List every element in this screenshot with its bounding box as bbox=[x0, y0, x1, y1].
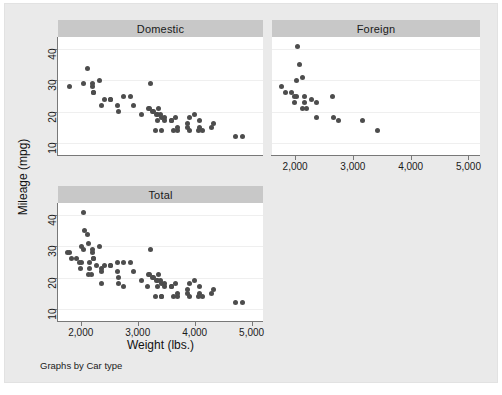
data-point bbox=[156, 272, 161, 277]
data-point bbox=[97, 244, 102, 249]
gridline bbox=[272, 112, 480, 113]
data-point bbox=[169, 284, 174, 289]
panel-total: Total bbox=[58, 186, 263, 321]
data-point bbox=[279, 84, 284, 89]
data-point bbox=[145, 284, 150, 289]
data-point bbox=[187, 115, 192, 120]
gridline bbox=[272, 80, 480, 81]
data-point bbox=[65, 250, 70, 255]
data-point bbox=[297, 62, 302, 67]
data-point bbox=[128, 94, 133, 99]
x-axis-tick bbox=[411, 156, 412, 160]
data-point bbox=[375, 128, 380, 133]
y-axis-tick-label: 40 bbox=[47, 215, 58, 255]
x-axis-line bbox=[271, 155, 480, 156]
x-axis-tick bbox=[295, 156, 296, 160]
data-point bbox=[115, 260, 120, 265]
x-axis-tick-label: 2,000 bbox=[271, 161, 319, 172]
data-point bbox=[309, 97, 314, 102]
x-axis-tick bbox=[195, 322, 196, 326]
data-point bbox=[90, 81, 95, 86]
data-point bbox=[121, 94, 126, 99]
x-axis-tick bbox=[353, 156, 354, 160]
panel-title-domestic: Domestic bbox=[58, 20, 263, 37]
gridline bbox=[58, 246, 263, 247]
data-point bbox=[302, 100, 307, 105]
x-axis-tick bbox=[252, 322, 253, 326]
data-point bbox=[171, 294, 176, 299]
x-axis-tick bbox=[468, 156, 469, 160]
data-point bbox=[128, 260, 133, 265]
y-axis-title: Mileage (mpg) bbox=[16, 127, 30, 227]
gridline bbox=[58, 80, 263, 81]
x-axis-tick-label: 4,000 bbox=[171, 327, 219, 338]
data-point bbox=[108, 97, 113, 102]
data-point bbox=[85, 66, 90, 71]
data-point bbox=[147, 106, 152, 111]
data-point bbox=[121, 260, 126, 265]
data-point bbox=[81, 210, 86, 215]
data-point bbox=[336, 118, 341, 123]
plot-area-foreign bbox=[272, 37, 480, 155]
data-point bbox=[81, 81, 86, 86]
data-point bbox=[240, 134, 245, 139]
x-axis-tick-label: 4,000 bbox=[387, 161, 435, 172]
data-point bbox=[153, 294, 158, 299]
data-point bbox=[169, 118, 174, 123]
data-point bbox=[330, 94, 335, 99]
data-point bbox=[200, 294, 205, 299]
gridline bbox=[58, 309, 263, 310]
data-point bbox=[292, 100, 297, 105]
data-point bbox=[91, 90, 96, 95]
data-point bbox=[139, 278, 144, 283]
data-point bbox=[87, 260, 92, 265]
y-axis-tick-label: 40 bbox=[47, 49, 58, 89]
gridline bbox=[58, 215, 263, 216]
x-axis-tick-label: 2,000 bbox=[57, 327, 105, 338]
graph-screenshot: Mileage (mpg) Weight (lbs.) Graphs by Ca… bbox=[0, 0, 502, 395]
data-point bbox=[148, 81, 153, 86]
data-point bbox=[187, 281, 192, 286]
data-point bbox=[200, 128, 205, 133]
data-point bbox=[91, 256, 96, 261]
panel-foreign: Foreign bbox=[272, 20, 480, 155]
data-point bbox=[131, 269, 136, 274]
data-point bbox=[197, 284, 202, 289]
data-point bbox=[116, 275, 121, 280]
data-point bbox=[173, 281, 178, 286]
data-point bbox=[300, 75, 305, 80]
data-point bbox=[89, 272, 94, 277]
x-axis-tick-label: 5,000 bbox=[444, 161, 492, 172]
data-point bbox=[192, 278, 197, 283]
data-point bbox=[67, 84, 72, 89]
data-point bbox=[314, 115, 319, 120]
data-point bbox=[304, 106, 309, 111]
x-axis-tick-label: 5,000 bbox=[228, 327, 276, 338]
data-point bbox=[159, 294, 164, 299]
data-point bbox=[78, 266, 83, 271]
data-point bbox=[240, 300, 245, 305]
data-point bbox=[115, 269, 120, 274]
data-point bbox=[192, 112, 197, 117]
x-axis-tick-label: 3,000 bbox=[329, 161, 377, 172]
x-axis-tick-label: 3,000 bbox=[114, 327, 162, 338]
data-point bbox=[90, 247, 95, 252]
panel-title-foreign: Foreign bbox=[272, 20, 480, 37]
data-point bbox=[209, 125, 214, 130]
x-axis-line bbox=[57, 155, 263, 156]
data-point bbox=[148, 247, 153, 252]
data-point bbox=[360, 118, 365, 123]
data-point bbox=[87, 266, 92, 271]
gridline bbox=[272, 143, 480, 144]
data-point bbox=[139, 112, 144, 117]
gridline bbox=[272, 49, 480, 50]
data-point bbox=[156, 106, 161, 111]
data-point bbox=[153, 128, 158, 133]
x-axis-tick bbox=[81, 322, 82, 326]
data-point bbox=[108, 263, 113, 268]
data-point bbox=[197, 118, 202, 123]
gridline bbox=[58, 49, 263, 50]
data-point bbox=[97, 78, 102, 83]
plot-area-total bbox=[58, 203, 263, 321]
graph-note: Graphs by Car type bbox=[40, 360, 122, 371]
